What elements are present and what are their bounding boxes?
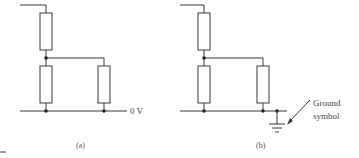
circuit-diagram: 0 V (a) Ground symbol (b): [0, 0, 359, 158]
junction-a-mid: [44, 56, 48, 60]
resistor-lower-right-a: [98, 66, 110, 103]
zero-volt-label: 0 V: [130, 106, 144, 116]
junction-b-bottom-right: [261, 109, 265, 113]
caption-a: (a): [76, 141, 85, 150]
input-wire-a: [20, 5, 46, 13]
caption-b: (b): [256, 141, 266, 150]
junction-a-bottom-left: [44, 109, 48, 113]
ground-label-line1: Ground: [313, 98, 341, 108]
ground-symbol-icon: [269, 111, 285, 132]
ground-label-line2: symbol: [313, 111, 340, 121]
resistor-top-b: [198, 13, 210, 50]
junction-a-bottom-right: [102, 109, 106, 113]
panel-b: Ground symbol (b): [180, 5, 341, 150]
input-wire-b: [180, 5, 204, 13]
branch-wire-b: [204, 58, 263, 66]
junction-b-mid: [202, 56, 206, 60]
resistor-lower-left-a: [40, 66, 52, 103]
panel-a: 0 V (a): [0, 5, 144, 152]
ground-arrow-icon: [287, 100, 310, 125]
resistor-lower-right-b: [257, 66, 269, 103]
branch-wire-a: [46, 58, 104, 66]
resistor-top-a: [40, 13, 52, 50]
junction-b-bottom-left: [202, 109, 206, 113]
resistor-lower-left-b: [198, 66, 210, 103]
